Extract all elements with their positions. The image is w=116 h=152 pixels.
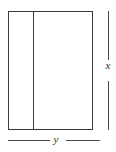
height-dimension-label: x bbox=[100, 60, 116, 71]
width-dimension-line-left bbox=[8, 140, 50, 141]
figure-canvas: x y bbox=[0, 0, 116, 152]
height-dimension-line-upper bbox=[108, 11, 109, 60]
width-dimension-line-right bbox=[66, 140, 100, 141]
height-dimension-line-lower bbox=[108, 81, 109, 130]
interior-vertical-divider bbox=[33, 11, 34, 130]
width-dimension-label: y bbox=[48, 134, 64, 145]
outer-rectangle bbox=[8, 11, 93, 130]
